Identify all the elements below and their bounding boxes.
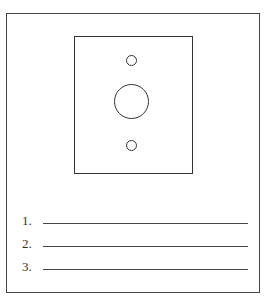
answer-number-1: 1. [22,213,32,229]
small-top-hole [126,55,137,66]
answer-number-2: 2. [22,236,32,252]
answer-line-2[interactable] [43,246,248,247]
answer-line-3[interactable] [43,269,248,270]
large-center-hole [114,84,149,119]
answer-number-3: 3. [22,259,32,275]
answer-line-1[interactable] [43,223,248,224]
small-bottom-hole [126,140,137,151]
